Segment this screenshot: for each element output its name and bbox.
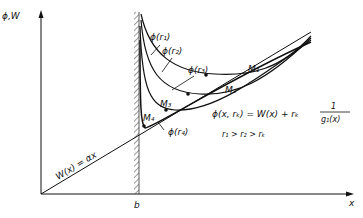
y-axis — [39, 10, 44, 194]
y-axis-label: ϕ,W — [2, 11, 21, 21]
equation-numerator: 1 — [331, 102, 336, 111]
x-axis — [41, 192, 354, 197]
line-label: W(x) = αx — [54, 149, 99, 181]
barrier-wall — [134, 12, 139, 194]
min-label-m4: M₄ — [143, 113, 155, 123]
x-axis-label: x — [348, 198, 355, 208]
min-point-m2 — [186, 92, 190, 96]
curve-label-r2: ϕ(r₂) — [162, 46, 182, 56]
equation: ϕ(x, rₖ) = W(x) + rₖ 1 g₁(x) r₁ > r₂ > r… — [212, 102, 350, 139]
equation-lhs: ϕ(x, rₖ) = W(x) + rₖ — [212, 109, 299, 119]
barrier-function-diagram: ϕ,W x b W(x) = αx ϕ(r₁) ϕ(r₂) ϕ(r₃) ϕ(r₄… — [0, 0, 363, 218]
curve-label-r1: ϕ(r₁) — [150, 32, 170, 42]
min-label-m2: M₂ — [225, 85, 237, 95]
curve-label-r3: ϕ(r₃) — [188, 65, 208, 75]
equation-denominator: g₁(x) — [321, 115, 340, 124]
min-label-m3: M₃ — [160, 99, 172, 109]
min-label-m1: M₁ — [248, 64, 260, 74]
wall-label: b — [134, 200, 140, 210]
curve-label-r4: ϕ(r₄) — [168, 127, 188, 137]
equation-inequality: r₁ > r₂ > rₖ — [222, 130, 265, 139]
min-point-m4 — [142, 124, 146, 128]
